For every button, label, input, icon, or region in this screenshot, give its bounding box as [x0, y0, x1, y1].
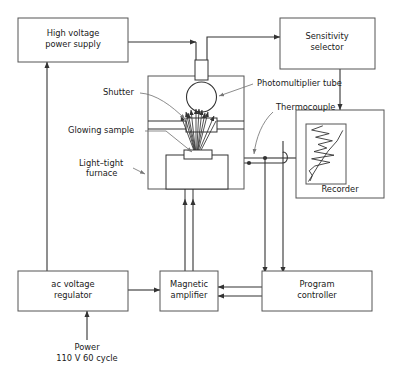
pmt-label: Photomultiplier tube	[257, 78, 342, 88]
block-magnetic-amplifier[interactable]: Magnetic amplifier	[160, 271, 218, 311]
thermocouple-label: Thermocouple	[275, 102, 335, 112]
magnetic-amplifier-label-line1: Magnetic	[170, 279, 208, 289]
block-ac-voltage-regulator[interactable]: ac voltage regulator	[18, 271, 128, 311]
light-tight-furnace-body	[166, 155, 228, 189]
program-controller-label-line1: Program	[299, 279, 334, 289]
block-sensitivity-selector[interactable]: Sensitivity selector	[280, 18, 375, 69]
callout-light-tight-furnace: Light–tight furnace	[79, 158, 145, 178]
photomultiplier-tube	[187, 82, 217, 112]
figure-canvas: High voltage power supply Sensitivity se…	[0, 0, 393, 384]
recorder-label: Recorder	[321, 184, 359, 194]
junction-dot-upper	[263, 156, 267, 160]
furnace-label-line1: Light–tight	[79, 158, 124, 168]
sensitivity-label-line1: Sensitivity	[305, 31, 348, 41]
thermoluminescence-block-diagram: High voltage power supply Sensitivity se…	[0, 0, 393, 384]
power-label-line1: Power	[74, 342, 100, 352]
thermocouple-leader-line	[254, 112, 273, 154]
pmt-neck	[195, 60, 208, 80]
sensitivity-label-line2: selector	[310, 42, 344, 52]
apparatus-assembly	[148, 60, 244, 199]
junction-dot-lower	[247, 161, 251, 165]
block-program-controller[interactable]: Program controller	[262, 271, 372, 311]
wire-pmt-to-sensitivity-selector	[207, 37, 280, 76]
hv-supply-label-line2: power supply	[45, 39, 101, 49]
power-input-annotation: Power 110 V 60 cycle	[56, 342, 117, 363]
block-recorder[interactable]: Recorder	[296, 110, 384, 198]
hv-supply-label-line1: High voltage	[47, 28, 100, 38]
shutter-label: Shutter	[103, 87, 134, 97]
ac-regulator-label-line2: regulator	[54, 290, 93, 300]
power-label-line2: 110 V 60 cycle	[56, 353, 117, 363]
glowing-sample-pan	[184, 150, 212, 159]
block-high-voltage-power-supply[interactable]: High voltage power supply	[18, 18, 128, 62]
magnetic-amplifier-label-line2: amplifier	[171, 290, 208, 300]
program-controller-label-line2: controller	[297, 290, 337, 300]
glowing-sample-label: Glowing sample	[68, 125, 134, 135]
ac-regulator-label-line1: ac voltage	[51, 279, 94, 289]
furnace-leader-line	[133, 168, 145, 174]
furnace-heater-leads	[185, 189, 193, 199]
furnace-label-line2: furnace	[86, 168, 117, 178]
